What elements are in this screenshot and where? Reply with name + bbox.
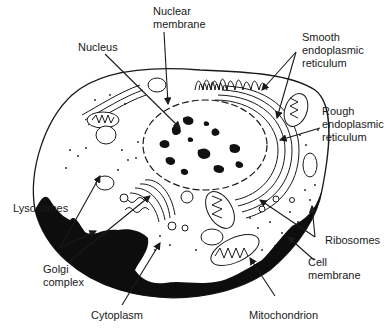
label-nuclear-membrane: Nuclear membrane <box>153 5 206 31</box>
label-smooth-er: Smooth endoplasmic reticulum <box>302 31 364 70</box>
label-nucleus: Nucleus <box>78 41 118 54</box>
label-mitochondrion: Mitochondrion <box>249 309 318 322</box>
label-golgi-complex: Golgi complex <box>43 263 84 289</box>
label-cell-membrane: Cell membrane <box>308 256 361 282</box>
label-rough-er: Rough endoplasmic reticulum <box>322 105 384 144</box>
cell-diagram: Nuclear membrane Nucleus Smooth endoplas… <box>0 0 392 330</box>
label-ribosomes: Ribosomes <box>325 234 380 247</box>
label-lysosomes: Lysosomes <box>13 202 68 215</box>
label-cytoplasm: Cytoplasm <box>91 309 143 322</box>
